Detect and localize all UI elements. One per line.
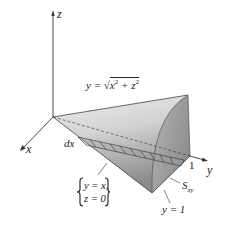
exp-z: 2 xyxy=(135,78,139,86)
plane-leader-line xyxy=(164,190,170,203)
condition-line-2: z = 0 xyxy=(84,193,106,204)
condition-line-1: y = x, xyxy=(84,180,108,191)
equation-lhs: y = xyxy=(86,79,104,91)
edge-condition-brace: y = x, z = 0 xyxy=(76,177,110,207)
surface-equation: y = √x2 + z2 xyxy=(86,77,139,91)
y-tick-one: 1 xyxy=(189,160,195,171)
edge-leader-line xyxy=(98,163,107,175)
dx-label: dx xyxy=(64,138,74,149)
sxy-leader-line xyxy=(170,178,180,183)
z-axis-label: z xyxy=(57,9,62,20)
plane-y1-label: y = 1 xyxy=(162,204,185,215)
region-label: Sxy xyxy=(182,180,194,196)
radicand-plus-z: + z xyxy=(118,79,135,91)
y-axis-arrow-icon xyxy=(202,158,208,162)
region-subscript: xy xyxy=(188,186,194,194)
z-axis-arrow-icon xyxy=(51,10,54,16)
equation-radicand: x2 + z2 xyxy=(110,77,139,91)
y-axis-label: y xyxy=(207,165,212,176)
x-axis-label: x xyxy=(26,144,31,155)
